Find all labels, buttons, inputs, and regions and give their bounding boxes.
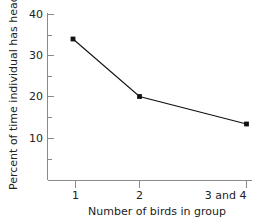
line-chart: 40 30 20 10 1 2 3 and 4 Number of birds … — [0, 0, 259, 221]
y-tick-label-40: 40 — [29, 8, 43, 21]
y-tick-label-10: 10 — [29, 132, 43, 145]
data-point-1 — [71, 37, 76, 42]
x-axis-title: Number of birds in group — [88, 205, 226, 218]
chart-container: 40 30 20 10 1 2 3 and 4 Number of birds … — [0, 0, 259, 221]
x-tick-label-1: 1 — [72, 189, 79, 202]
data-series-line — [73, 39, 247, 124]
x-tick-label-3-and-4: 3 and 4 — [205, 189, 247, 202]
y-axis-title: Percent of time individual has head up — [7, 0, 20, 190]
y-axis-minor-ticks — [48, 36, 52, 160]
y-tick-label-30: 30 — [29, 49, 43, 62]
data-markers — [71, 37, 249, 127]
y-tick-label-20: 20 — [29, 90, 43, 103]
data-point-3 — [244, 122, 249, 127]
data-point-2 — [137, 94, 142, 99]
x-tick-label-2: 2 — [136, 189, 143, 202]
x-axis-ticks — [76, 181, 247, 188]
